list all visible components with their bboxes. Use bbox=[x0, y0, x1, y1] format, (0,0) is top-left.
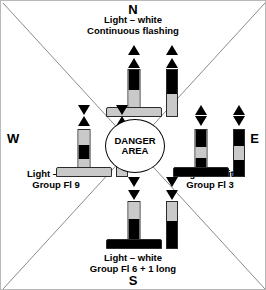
west-topmark bbox=[56, 105, 112, 129]
band-black bbox=[234, 130, 244, 146]
cone-down-icon bbox=[116, 105, 128, 115]
east-spar-topmark bbox=[233, 105, 245, 129]
cone-up-icon bbox=[233, 105, 245, 115]
west-beacon-base bbox=[56, 167, 112, 177]
mark-group-south bbox=[106, 177, 178, 249]
danger-area-circle: DANGER AREA bbox=[105, 119, 165, 173]
cone-down-icon bbox=[128, 190, 140, 200]
compass-letter-south: S bbox=[1, 274, 265, 289]
band-gray bbox=[196, 147, 207, 158]
south-beacon bbox=[106, 177, 162, 249]
west-beacon-body bbox=[56, 129, 112, 177]
cone-down-icon bbox=[166, 190, 178, 200]
north-topmark bbox=[106, 45, 162, 69]
east-spar-body bbox=[233, 129, 245, 177]
cardinal-marks-diagram: N Light – white Continuous flashing bbox=[0, 0, 266, 290]
band-black bbox=[129, 219, 140, 239]
east-beacon bbox=[173, 105, 229, 177]
mark-group-east bbox=[173, 105, 245, 177]
caption-west-line2: Group Fl 9 bbox=[4, 180, 108, 191]
band-black bbox=[167, 70, 177, 94]
caption-north-line2: Continuous flashing bbox=[1, 26, 265, 37]
band-black bbox=[196, 130, 207, 147]
band-gray bbox=[234, 146, 244, 161]
cone-down-icon bbox=[166, 177, 178, 187]
east-topmark bbox=[173, 105, 229, 129]
band-black bbox=[167, 221, 177, 248]
band-gray bbox=[79, 130, 90, 145]
band-gray bbox=[129, 90, 140, 107]
east-beacon-base bbox=[173, 167, 229, 177]
compass-letter-west: W bbox=[7, 132, 19, 147]
north-beacon-column bbox=[128, 69, 141, 108]
caption-south: Light – white Group Fl 6 + 1 long bbox=[1, 253, 265, 274]
cone-down-icon bbox=[78, 105, 90, 115]
south-beacon-base bbox=[106, 239, 162, 249]
south-beacon-body bbox=[106, 201, 162, 249]
compass-letter-east: E bbox=[250, 132, 259, 147]
south-beacon-column bbox=[128, 201, 141, 240]
band-black bbox=[234, 160, 244, 176]
west-beacon-column bbox=[78, 129, 91, 168]
band-gray bbox=[129, 202, 140, 219]
cone-down-icon bbox=[195, 116, 207, 126]
band-gray bbox=[79, 159, 90, 167]
cone-down-icon bbox=[128, 177, 140, 187]
cone-up-icon bbox=[166, 58, 178, 68]
south-spar-topmark bbox=[166, 177, 178, 201]
west-beacon bbox=[56, 105, 112, 177]
east-beacon-body bbox=[173, 129, 229, 177]
danger-area-line2: AREA bbox=[122, 146, 149, 156]
band-gray bbox=[167, 202, 177, 221]
cone-up-icon bbox=[166, 45, 178, 55]
band-black bbox=[196, 158, 207, 167]
east-spar-buoy bbox=[233, 105, 245, 177]
band-black bbox=[79, 145, 90, 159]
cone-up-icon bbox=[128, 58, 140, 68]
south-topmark bbox=[106, 177, 162, 201]
cone-up-icon bbox=[78, 116, 90, 126]
east-spar-column bbox=[233, 129, 245, 177]
band-black bbox=[129, 70, 140, 90]
south-spar-body bbox=[166, 201, 178, 249]
north-spar-topmark bbox=[166, 45, 178, 69]
east-beacon-column bbox=[195, 129, 208, 168]
south-spar-column bbox=[166, 201, 178, 249]
cone-up-icon bbox=[128, 45, 140, 55]
cone-up-icon bbox=[195, 105, 207, 115]
cone-down-icon bbox=[233, 116, 245, 126]
caption-north: Light – white Continuous flashing bbox=[1, 15, 265, 36]
south-spar-buoy bbox=[166, 177, 178, 249]
